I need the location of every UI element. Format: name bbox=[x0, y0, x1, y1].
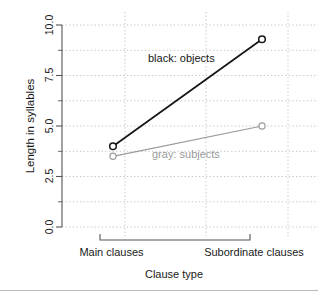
x-tick-label-main-clauses: Main clauses bbox=[64, 246, 159, 258]
y-tick-label-10: 10.0 bbox=[43, 7, 55, 43]
y-tick-label-2-5: 2.5 bbox=[43, 160, 55, 192]
series-subjects-point-main bbox=[110, 153, 116, 159]
x-tick-label-subordinate-clauses: Subordinate clauses bbox=[190, 246, 318, 258]
y-tick-label-0: 0.0 bbox=[43, 211, 55, 243]
x-axis-title: Clause type bbox=[119, 268, 229, 280]
x-axis-bracket bbox=[100, 234, 250, 240]
x-axis-bracket-path bbox=[100, 234, 250, 240]
figure-bottom-rule bbox=[0, 290, 318, 291]
series-objects-point-main bbox=[110, 143, 117, 150]
y-tick-label-5: 5.0 bbox=[43, 110, 55, 142]
y-tick-label-7-5: 7.5 bbox=[43, 59, 55, 91]
annotation-gray-subjects: gray: subjects bbox=[152, 148, 220, 160]
chart-figure: 10.0 7.5 5.0 2.5 0.0 Length in syllables… bbox=[0, 0, 318, 297]
series-subjects-point-subordinate bbox=[259, 123, 265, 129]
series-objects-point-subordinate bbox=[259, 36, 266, 43]
annotation-black-objects: black: objects bbox=[148, 52, 215, 64]
y-axis-title: Length in syllables bbox=[24, 56, 36, 196]
y-axis bbox=[56, 25, 62, 227]
